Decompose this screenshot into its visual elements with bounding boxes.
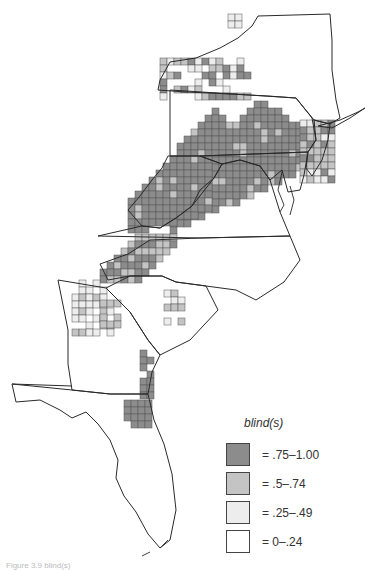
legend-swatch	[226, 472, 250, 495]
legend-label: = .25–.49	[262, 506, 312, 520]
legend-title: blind(s)	[244, 416, 366, 430]
legend-swatch	[226, 501, 250, 524]
state-new-york	[158, 14, 340, 124]
state-florida	[12, 384, 176, 548]
legend-swatch	[226, 530, 250, 553]
legend-label: = 0–.24	[262, 535, 302, 549]
legend-item-medium-high: = .5–.74	[226, 469, 366, 498]
figure-caption: Figure 3.9 blind(s)	[6, 561, 70, 570]
legend-item-medium-low: = .25–.49	[226, 498, 366, 527]
legend-label: = .75–1.00	[262, 448, 319, 462]
legend-swatch	[226, 443, 250, 466]
chesapeake-bay	[278, 172, 294, 215]
legend-item-high: = .75–1.00	[226, 440, 366, 469]
grid-cells	[72, 14, 335, 428]
state-south-carolina	[106, 276, 218, 355]
legend-item-low: = 0–.24	[226, 527, 366, 556]
legend: blind(s) = .75–1.00 = .5–.74 = .25–.49 =…	[226, 416, 366, 556]
legend-label: = .5–.74	[262, 477, 306, 491]
